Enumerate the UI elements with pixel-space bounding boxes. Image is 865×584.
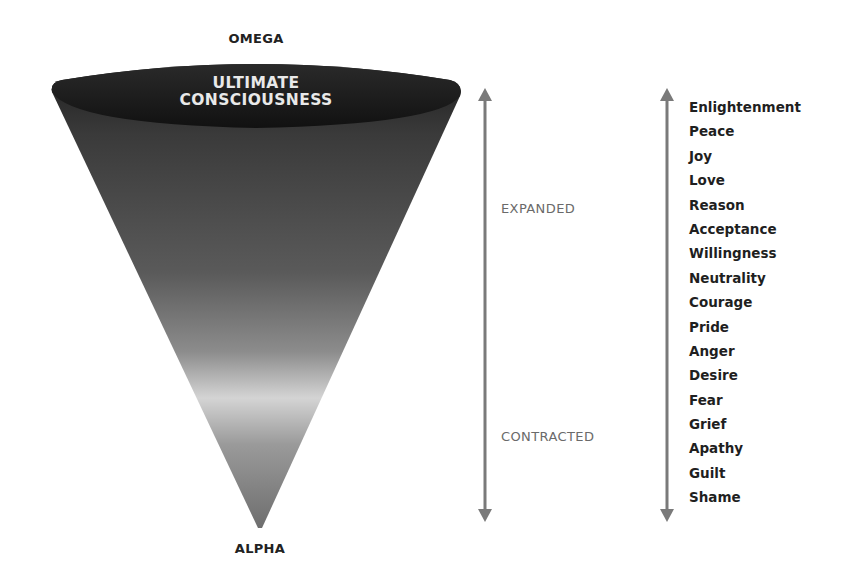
level-item: Grief <box>689 416 801 440</box>
level-item: Fear <box>689 392 801 416</box>
level-item: Guilt <box>689 465 801 489</box>
level-item: Desire <box>689 367 801 391</box>
level-item: Shame <box>689 489 801 513</box>
level-item: Willingness <box>689 245 801 269</box>
level-item: Reason <box>689 197 801 221</box>
expanded-label: EXPANDED <box>501 201 575 216</box>
levels-scale-arrow <box>660 88 674 522</box>
alpha-label: ALPHA <box>235 541 285 556</box>
cap-label-line2: CONSCIOUSNESS <box>179 92 332 109</box>
consciousness-levels-list: Enlightenment Peace Joy Love Reason Acce… <box>689 99 801 514</box>
level-item: Anger <box>689 343 801 367</box>
ultimate-consciousness-label: ULTIMATE CONSCIOUSNESS <box>179 75 332 109</box>
level-item: Neutrality <box>689 270 801 294</box>
level-item: Joy <box>689 148 801 172</box>
level-item: Apathy <box>689 440 801 464</box>
omega-label: OMEGA <box>228 31 283 46</box>
level-item: Enlightenment <box>689 99 801 123</box>
level-item: Acceptance <box>689 221 801 245</box>
level-item: Peace <box>689 123 801 147</box>
contracted-label: CONTRACTED <box>501 429 594 444</box>
expanded-contracted-arrow <box>478 88 492 522</box>
level-item: Courage <box>689 294 801 318</box>
level-item: Love <box>689 172 801 196</box>
cap-label-line1: ULTIMATE <box>179 75 332 92</box>
level-item: Pride <box>689 319 801 343</box>
cone-body <box>52 64 461 528</box>
